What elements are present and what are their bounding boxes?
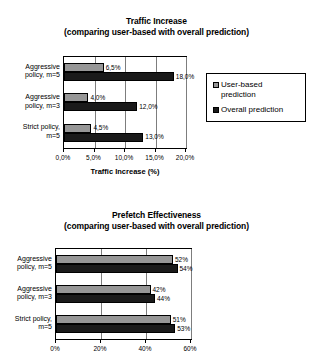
bar-value-label: 4,5% [93,124,108,132]
chart-title-prefetch: Prefetch Effectiveness (comparing user-b… [0,196,313,232]
chart-traffic-increase: Traffic Increase (comparing user-based w… [0,0,313,180]
bar-value-label: 12,0% [139,103,157,111]
bar-group: 52%54% [56,249,191,279]
tick-mark [94,149,95,152]
legend-label-user-based: User-based prediction [221,80,262,99]
x-tick-label: 20,0% [176,154,194,162]
category-label: Strict policy,m=5 [4,123,60,140]
category-axis-prefetch: Aggressivepolicy, m=5Aggressivepolicy, m… [2,248,52,340]
x-tick-label: 10,0% [115,154,133,162]
x-tick-label: 20% [93,345,106,353]
bar-group: 4,5%13,0% [64,118,186,148]
bar-user-based[interactable] [56,285,151,294]
bar-value-label: 44% [157,295,170,303]
bar-value-label: 54% [180,265,193,273]
bar-group: 42%44% [56,279,191,309]
chart-title-line1: Prefetch Effectiveness [0,210,313,221]
bar-overall[interactable] [56,294,155,303]
x-tick-label: 60% [183,345,196,353]
x-tick-label: 15,0% [145,154,163,162]
gridline [186,57,187,148]
tick-mark [124,149,125,152]
bar-value-label: 53% [177,325,190,333]
bar-overall[interactable] [56,324,175,333]
plot-area-traffic: 6,5%18,0%4,0%12,0%4,5%13,0% [63,56,187,149]
chart-prefetch-effectiveness: Prefetch Effectiveness (comparing user-b… [0,196,313,361]
bar-group: 51%53% [56,309,191,339]
x-axis-title-traffic: Traffic Increase (%) [91,167,160,176]
bar-value-label: 42% [153,286,166,294]
category-axis-traffic: Aggressivepolicy, m=5Aggressivepolicy, m… [4,56,60,149]
bar-overall[interactable] [64,133,143,142]
bar-value-label: 18,0% [176,73,194,81]
legend-item-overall[interactable]: Overall prediction [213,105,300,115]
bar-value-label: 52% [175,256,188,264]
chart-title-line2: (comparing user-based with overall predi… [0,27,313,38]
bar-value-label: 51% [173,316,186,324]
bar-user-based[interactable] [64,124,91,133]
tick-mark [185,149,186,152]
tick-mark [63,149,64,152]
x-tick-label: 0,0% [56,154,71,162]
bar-group: 6,5%18,0% [64,57,186,87]
legend-traffic: User-based prediction Overall prediction [206,73,306,122]
chart-title-line2: (comparing user-based with overall predi… [0,221,313,232]
tick-mark [55,340,56,343]
category-label: Aggressivepolicy, m=5 [2,255,52,272]
bar-overall[interactable] [56,264,178,273]
bar-user-based[interactable] [56,255,173,264]
tick-mark [145,340,146,343]
chart-title-line1: Traffic Increase [0,16,313,27]
bar-value-label: 13,0% [145,133,163,141]
bar-overall[interactable] [64,72,174,81]
bar-user-based[interactable] [56,315,171,324]
legend-item-user-based[interactable]: User-based prediction [213,80,300,99]
tick-mark [100,340,101,343]
tick-mark [155,149,156,152]
chart-title-traffic: Traffic Increase (comparing user-based w… [0,0,313,38]
tick-mark [190,340,191,343]
x-tick-label: 5,0% [86,154,101,162]
legend-swatch-overall-icon [213,107,219,113]
bar-value-label: 6,5% [106,64,121,72]
plot-area-prefetch: 52%54%42%44%51%53% [55,248,192,340]
category-label: Aggressivepolicy, m=3 [4,93,60,110]
category-label: Aggressivepolicy, m=5 [4,63,60,80]
bar-user-based[interactable] [64,63,104,72]
x-tick-label: 0% [50,345,59,353]
gridline [191,249,192,339]
category-label: Strict policy,m=5 [2,315,52,332]
legend-label-overall: Overall prediction [221,105,283,115]
x-tick-label: 40% [138,345,151,353]
category-label: Aggressivepolicy, m=3 [2,285,52,302]
bar-value-label: 4,0% [90,94,105,102]
bar-group: 4,0%12,0% [64,87,186,117]
bar-overall[interactable] [64,102,137,111]
legend-swatch-user-based-icon [213,82,219,88]
bar-user-based[interactable] [64,93,88,102]
